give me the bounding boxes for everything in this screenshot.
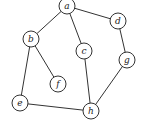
node-c: c — [76, 43, 92, 59]
node-label: e — [17, 98, 22, 108]
node-h: h — [83, 103, 99, 119]
edge-g-h — [91, 60, 127, 111]
edge-c-h — [84, 51, 91, 111]
node-label: d — [115, 16, 121, 26]
node-f: f — [50, 76, 66, 92]
node-label: c — [81, 46, 86, 56]
node-label: b — [28, 34, 34, 44]
node-label: a — [64, 1, 69, 11]
node-d: d — [110, 13, 126, 29]
node-g: g — [119, 52, 135, 68]
node-e: e — [12, 95, 28, 111]
node-b: b — [23, 31, 39, 47]
nodes-layer: abcdfgeh — [12, 0, 135, 119]
node-a: a — [59, 0, 75, 14]
graph-diagram: abcdfgeh — [0, 0, 141, 126]
node-label: g — [124, 55, 130, 65]
node-label: h — [88, 106, 94, 116]
edge-e-h — [20, 103, 91, 111]
edge-b-e — [20, 39, 31, 103]
